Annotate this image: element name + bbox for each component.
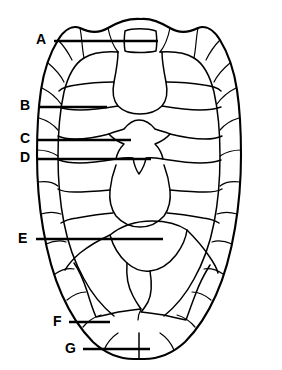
left-marginal-division-8	[46, 241, 66, 244]
label-B: B	[20, 97, 30, 113]
left-marginal-divisions	[37, 40, 118, 350]
vertebral-scute-2-star	[109, 120, 170, 174]
label-F: F	[53, 313, 62, 329]
vertebral-scute-1	[113, 52, 167, 114]
left-pleural-scute-6	[61, 213, 113, 223]
right-marginal-division-2	[214, 63, 230, 82]
marginal-division-upper-left-2	[80, 28, 84, 58]
left-marginal-division-12	[104, 333, 118, 350]
marginal-division-upper-right-2	[194, 28, 198, 58]
marginal-inner-boundary-group	[58, 52, 220, 316]
right-marginal-division-8	[212, 241, 232, 244]
right-pleural-scutes	[162, 82, 222, 273]
label-E: E	[18, 230, 27, 246]
label-C: C	[20, 130, 30, 146]
shell-outline-group	[37, 19, 241, 359]
right-marginal-divisions	[160, 40, 241, 350]
left-marginal-division-5	[37, 150, 58, 156]
right-pleural-scute-5	[170, 189, 222, 192]
right-marginal-division-4	[220, 118, 239, 130]
callout-E[interactable]: E	[18, 230, 163, 246]
right-marginal-division-6	[220, 182, 240, 186]
right-pleural-scute-4	[163, 159, 221, 163]
label-D: D	[20, 149, 30, 165]
carapace-outer-edge	[37, 19, 241, 359]
left-pleural-scute-3	[58, 134, 109, 139]
marginal-inner-boundary-left	[58, 52, 118, 316]
marginal-division-upper-right-1	[160, 28, 170, 52]
left-marginal-division-10	[67, 292, 86, 300]
right-marginal-division-7	[217, 213, 237, 215]
left-marginal-division-1	[58, 40, 72, 60]
posterior-scutes	[74, 263, 210, 320]
posterior-scute-left	[74, 263, 141, 317]
posterior-scute-center-notch	[138, 309, 141, 320]
right-marginal-division-11	[177, 315, 195, 327]
right-pleural-scute-6	[167, 213, 219, 223]
left-marginal-division-6	[38, 182, 58, 186]
right-pleural-scute-7	[187, 230, 218, 273]
callout-labels-group: A B C D E	[18, 31, 163, 356]
left-marginal-division-7	[41, 213, 61, 215]
left-pleural-scutes	[58, 82, 118, 270]
right-marginal-division-5	[220, 150, 241, 156]
carapace-drawing: A B C D E	[0, 0, 282, 370]
label-G: G	[65, 340, 76, 356]
left-marginal-division-4	[39, 118, 58, 130]
right-pleural-scute-3	[170, 134, 222, 139]
vertebral-scute-3	[110, 165, 171, 227]
turtle-carapace-figure: A B C D E	[0, 0, 282, 370]
left-marginal-division-3	[42, 88, 61, 104]
callout-B[interactable]: B	[20, 97, 107, 113]
left-marginal-division-2	[48, 63, 64, 82]
callout-A[interactable]: A	[36, 31, 158, 47]
label-A: A	[36, 31, 46, 47]
right-marginal-division-1	[206, 40, 220, 60]
vertebral-scute-4-posterior	[110, 221, 187, 271]
right-marginal-division-12	[160, 333, 174, 350]
right-pleural-scute-2	[162, 106, 221, 110]
posterior-scute-right	[141, 265, 210, 320]
left-pleural-scute-5	[58, 189, 110, 192]
